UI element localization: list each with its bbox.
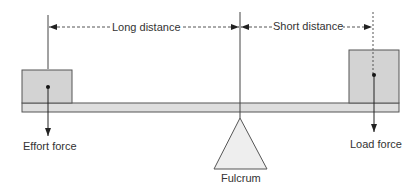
fulcrum-triangle <box>214 118 267 169</box>
short-distance-label: Short distance <box>273 20 343 32</box>
lever-diagram: Long distance Short distance Effort forc… <box>0 0 420 194</box>
fulcrum-label: Fulcrum <box>221 172 261 184</box>
diagram-graphics <box>0 0 420 194</box>
long-distance-label: Long distance <box>112 21 181 33</box>
load-force-label: Load force <box>350 138 402 150</box>
effort-force-label: Effort force <box>23 140 77 152</box>
lever-beam <box>22 103 399 112</box>
